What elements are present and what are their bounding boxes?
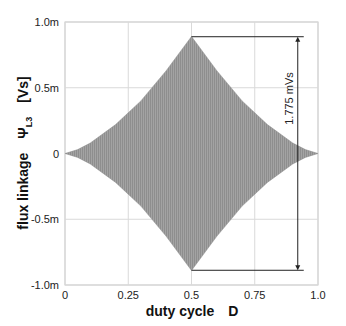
x-tick-label: 1.0 <box>310 289 325 301</box>
y-tick-label: 0.5m <box>35 82 59 94</box>
x-axis-ticks: 00.250.50.751.0 <box>62 289 326 301</box>
x-axis-label: duty cycle D <box>146 303 239 319</box>
y-tick-label: 1.0m <box>35 16 59 28</box>
chart: 1.0m0.5m0-0.5m-1.0m 00.250.50.751.0 1.77… <box>0 0 346 326</box>
x-tick-label: 0.5 <box>184 289 199 301</box>
y-tick-label: 0 <box>53 148 59 160</box>
y-axis-ticks: 1.0m0.5m0-0.5m-1.0m <box>31 16 59 291</box>
x-tick-label: 0 <box>62 289 68 301</box>
dimension-label: 1.775 mVs <box>283 72 295 125</box>
x-tick-label: 0.25 <box>118 289 139 301</box>
x-tick-label: 0.75 <box>244 289 265 301</box>
y-tick-label: -0.5m <box>31 213 59 225</box>
y-tick-label: -1.0m <box>31 279 59 291</box>
y-axis-label: flux linkage ΨL3 [Vs] <box>15 76 34 229</box>
